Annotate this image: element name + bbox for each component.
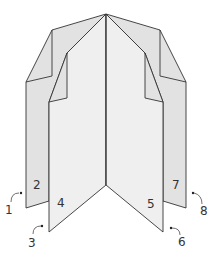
arrow-1-head — [20, 192, 22, 194]
arrow-6-icon — [172, 228, 180, 235]
panel-label-2: 2 — [33, 179, 41, 191]
arrow-8-icon — [194, 193, 202, 204]
panel-label-5: 5 — [147, 198, 155, 210]
arrow-6-head — [170, 227, 172, 229]
arrow-1-icon — [11, 193, 19, 202]
panel-label-4: 4 — [57, 197, 65, 209]
edge-label-1: 1 — [5, 204, 13, 216]
arrow-3-icon — [33, 226, 41, 234]
edge-label-3: 3 — [28, 237, 36, 249]
panel-label-7: 7 — [172, 179, 180, 191]
folded-book-diagram — [0, 0, 214, 260]
arrow-3-head — [41, 225, 43, 227]
edge-label-8: 8 — [200, 205, 208, 217]
arrow-8-head — [192, 192, 194, 194]
edge-label-6: 6 — [178, 236, 186, 248]
